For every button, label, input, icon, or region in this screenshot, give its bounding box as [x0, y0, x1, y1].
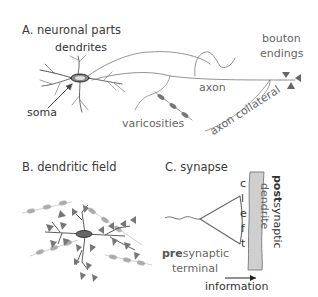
varicosities-a [157, 93, 190, 119]
label-axon: axon [199, 82, 226, 93]
label-information: information [205, 281, 269, 292]
label-dendrites: dendrites [55, 42, 107, 53]
label-presynaptic: presynaptic [162, 248, 229, 259]
panel-a-title: A. neuronal parts [22, 25, 121, 37]
bouton-endings [282, 72, 301, 89]
dendritic-field [22, 200, 152, 282]
cleft-letter: f [241, 223, 245, 234]
cleft-letter: l [241, 193, 244, 204]
cleft-letter: e [240, 208, 247, 219]
label-post-bold: post [271, 175, 284, 202]
label-endings: endings [260, 48, 303, 59]
cleft-letter: c [240, 178, 246, 189]
cleft-letter: t [241, 238, 245, 249]
label-pre-rest: synaptic [183, 247, 229, 260]
label-dendrite: dendrite [259, 183, 270, 229]
panel-b-title: B. dendritic field [22, 162, 117, 174]
label-post-rest: synaptic [271, 202, 284, 248]
label-varicosities: varicosities [122, 118, 184, 129]
label-terminal: terminal [172, 263, 218, 274]
label-soma: soma [27, 107, 57, 118]
label-bouton: bouton [262, 33, 301, 44]
panel-c-title: C. synapse [165, 162, 228, 174]
label-postsynaptic: postsynaptic [272, 175, 283, 249]
label-pre-bold: pre [162, 247, 183, 260]
